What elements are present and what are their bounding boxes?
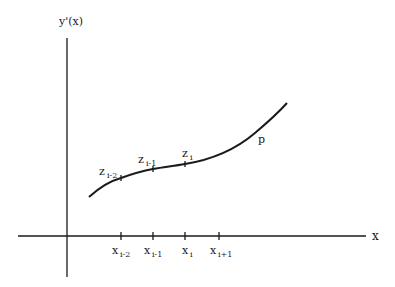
label-z-i: z i [182,147,193,162]
label-x-i-1: x i-1 [144,244,162,259]
svg-text:i-2: i-2 [120,250,130,259]
svg-text:i: i [190,250,193,259]
svg-text:z: z [99,165,105,178]
curve-label-p: p [258,133,265,146]
svg-text:x: x [182,244,189,257]
curve-p [89,103,287,197]
label-x-i-2: x i-2 [112,244,130,259]
label-z-i-2: z i-2 [99,165,117,180]
svg-text:x: x [112,244,119,257]
label-x-i+1: x i+1 [210,244,232,259]
svg-text:z: z [138,153,144,166]
diagram-canvas: y'(x) x p z i-2 z i-1 z i x i-2 x i-1 x … [0,0,395,287]
svg-text:x: x [210,244,217,257]
label-z-i-1: z i-1 [138,153,156,168]
svg-text:i: i [190,153,193,162]
svg-text:z: z [182,147,188,160]
x-axis-label: x [372,229,379,243]
label-x-i: x i [182,244,193,259]
svg-text:x: x [144,244,151,257]
svg-text:i-1: i-1 [152,250,162,259]
svg-text:i-1: i-1 [146,159,156,168]
y-axis-label: y'(x) [58,15,83,28]
svg-text:i+1: i+1 [218,250,232,259]
svg-text:i-2: i-2 [107,171,117,180]
